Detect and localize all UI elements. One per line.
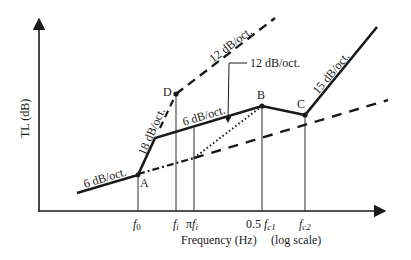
point-c-marker (302, 112, 307, 117)
point-b-marker (259, 103, 264, 108)
slope-label-callout: 12 dB/oct. (250, 56, 300, 70)
slope-label-upper-dashed: 12 dB/oct. (206, 24, 254, 65)
point-b-label: B (257, 88, 265, 102)
tick-pifi: πfi (186, 217, 198, 232)
dash-dot-mass-law-line (138, 158, 194, 174)
tick-fc2: fc2 (299, 217, 311, 232)
point-a-label: A (140, 176, 149, 190)
y-axis-label: TL (dB) (18, 99, 32, 138)
tick-f0: f0 (133, 217, 141, 232)
x-axis-scale-note: (log scale) (271, 233, 321, 247)
point-d-marker (173, 91, 178, 96)
tick-fi: fi (173, 217, 179, 232)
x-tick-labels: f0 fi πfi 0.5 fc1 fc2 (133, 217, 311, 232)
x-axis-label: Frequency (Hz) (181, 233, 257, 247)
tick-fc1: 0.5 fc1 (246, 217, 276, 232)
slope-label-mid: 6 dB/oct. (181, 103, 227, 129)
point-c-label: C (297, 97, 305, 111)
point-d-label: D (163, 85, 172, 99)
slope-label-low: 6 dB/oct. (82, 165, 128, 191)
tl-frequency-diagram: A D B C 6 dB/oct. 18 dB/oct. 6 dB/oct. 1… (0, 0, 411, 260)
slope-label-high: 15 dB/oct. (310, 50, 353, 97)
slope-label-steep: 18 dB/oct. (135, 106, 168, 157)
